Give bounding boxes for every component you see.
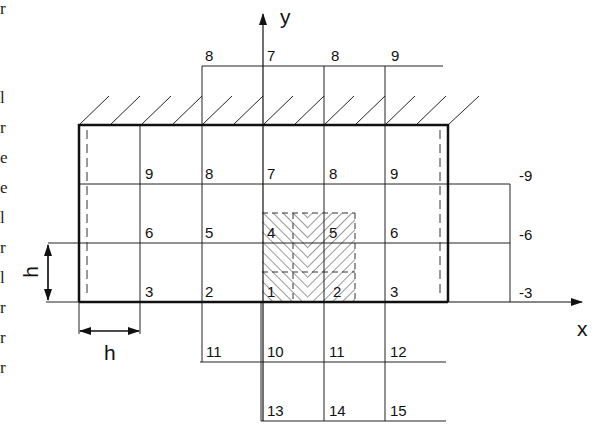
fixed-support-hatching bbox=[79, 96, 479, 125]
svg-text:7: 7 bbox=[267, 165, 275, 182]
svg-text:12: 12 bbox=[390, 343, 407, 360]
svg-text:-3: -3 bbox=[519, 284, 532, 301]
finite-difference-grid-diagram: r l r e e l r l r r r bbox=[0, 0, 595, 432]
x-axis-label: x bbox=[577, 317, 588, 340]
svg-text:3: 3 bbox=[145, 283, 153, 300]
svg-text:6: 6 bbox=[390, 224, 398, 241]
svg-text:l: l bbox=[0, 208, 5, 227]
svg-text:-6: -6 bbox=[519, 226, 532, 243]
svg-text:4: 4 bbox=[267, 224, 275, 241]
svg-text:r: r bbox=[0, 0, 6, 18]
svg-text:6: 6 bbox=[145, 224, 153, 241]
svg-text:3: 3 bbox=[390, 283, 398, 300]
svg-text:r: r bbox=[0, 358, 6, 377]
svg-text:14: 14 bbox=[329, 402, 346, 419]
svg-text:9: 9 bbox=[391, 47, 399, 64]
left-edge-text: r l r e e l r l r r r bbox=[0, 0, 8, 377]
svg-text:9: 9 bbox=[390, 165, 398, 182]
svg-text:9: 9 bbox=[145, 165, 153, 182]
svg-text:e: e bbox=[0, 178, 8, 197]
svg-text:1: 1 bbox=[267, 283, 275, 300]
svg-text:-9: -9 bbox=[519, 167, 532, 184]
h-horizontal-label: h bbox=[104, 341, 116, 364]
y-axis-label: y bbox=[280, 5, 291, 28]
svg-text:5: 5 bbox=[329, 224, 337, 241]
svg-text:8: 8 bbox=[331, 47, 339, 64]
svg-text:5: 5 bbox=[205, 224, 213, 241]
svg-text:8: 8 bbox=[329, 165, 337, 182]
svg-text:l: l bbox=[0, 88, 5, 107]
svg-text:e: e bbox=[0, 148, 8, 167]
svg-text:r: r bbox=[0, 328, 6, 347]
svg-text:8: 8 bbox=[205, 47, 213, 64]
svg-text:13: 13 bbox=[267, 402, 284, 419]
h-vertical-label: h bbox=[19, 266, 42, 278]
svg-text:15: 15 bbox=[390, 402, 407, 419]
svg-text:2: 2 bbox=[333, 283, 341, 300]
svg-text:r: r bbox=[0, 238, 6, 257]
svg-text:2: 2 bbox=[205, 283, 213, 300]
svg-text:7: 7 bbox=[267, 47, 275, 64]
svg-text:r: r bbox=[0, 298, 6, 317]
svg-text:r: r bbox=[0, 118, 6, 137]
svg-text:10: 10 bbox=[267, 343, 284, 360]
svg-text:11: 11 bbox=[206, 343, 222, 360]
svg-text:11: 11 bbox=[329, 343, 345, 360]
svg-text:l: l bbox=[0, 268, 5, 287]
svg-text:8: 8 bbox=[205, 165, 213, 182]
